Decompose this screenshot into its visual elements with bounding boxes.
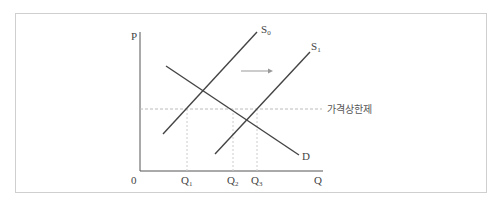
supply-demand-diagram: P Q 0 S0 S1 D Q1 Q2 Q3 가격상한제 [0,0,498,206]
d-label: D [302,150,310,162]
y-axis-label: P [131,30,137,42]
supply-curve-s1 [215,52,310,154]
s0-label: S0 [261,23,271,37]
x-axis-label: Q [314,174,322,186]
supply-curve-s0 [163,32,257,134]
q2-label: Q2 [227,174,239,188]
s1-label: S1 [311,40,321,54]
q3-label: Q3 [251,174,263,188]
right-arrow-icon [241,69,273,74]
price-ceiling-label: 가격상한제 [327,103,372,115]
q1-label: Q1 [181,174,193,188]
origin-label: 0 [131,174,137,186]
